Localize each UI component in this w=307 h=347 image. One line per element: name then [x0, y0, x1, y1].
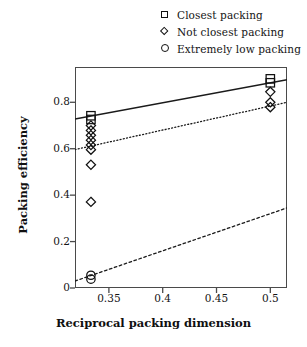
x-axis-tick-label: 0.4 [143, 292, 183, 304]
y-axis-title: Packing efficiency [16, 90, 30, 260]
legend-label: Closest packing [177, 9, 263, 21]
legend-label: Not closest packing [177, 26, 284, 38]
x-axis-title: Reciprocal packing dimension [0, 316, 307, 330]
legend-item-not-closest-packing: Not closest packing [158, 23, 306, 40]
y-axis-tick-label: 0.8 [40, 95, 70, 107]
legend-label: Extremely low packing [177, 43, 301, 55]
x-axis-tick-labels: 0.350.40.450.5 [0, 292, 307, 308]
y-axis-tick-label: 0.6 [40, 142, 70, 154]
legend-item-extremely-low-packing: Extremely low packing [158, 40, 306, 57]
diamond-marker-icon [158, 25, 172, 39]
x-axis-tick-label: 0.35 [89, 292, 129, 304]
circle-marker-icon [158, 42, 172, 56]
y-axis-tick-label: 0.2 [40, 235, 70, 247]
x-axis-tick-label: 0.45 [197, 292, 237, 304]
y-axis-tick-label: 0.4 [40, 188, 70, 200]
plot-area [75, 67, 287, 288]
legend-item-closest-packing: Closest packing [158, 6, 306, 23]
square-marker-icon [158, 8, 172, 22]
chart-legend: Closest packing Not closest packing Extr… [158, 6, 306, 57]
packing-efficiency-scatter-chart: Closest packing Not closest packing Extr… [0, 0, 307, 347]
x-axis-tick-label: 0.5 [250, 292, 290, 304]
